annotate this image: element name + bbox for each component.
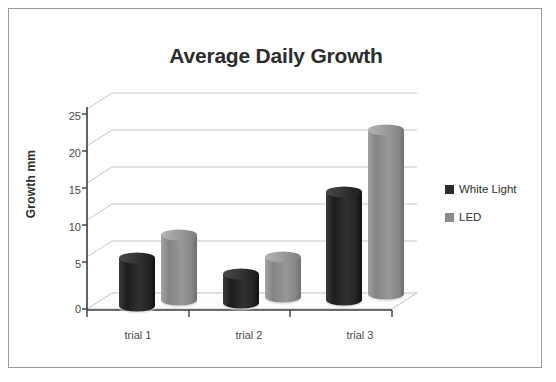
bar-trial-1-led (161, 230, 197, 308)
legend-swatch-led (445, 213, 454, 222)
chart-canvas: Average Daily Growth Growth mm 25 20 15 … (9, 9, 543, 369)
bar-trial-2-led (265, 252, 301, 305)
legend-label-led: LED (459, 211, 481, 223)
chart-frame: Average Daily Growth Growth mm 25 20 15 … (8, 8, 542, 368)
gridlines (87, 93, 417, 257)
legend-item-white-light[interactable]: White Light (445, 183, 541, 195)
bar-trial-1-white-light (119, 253, 155, 314)
chart-legend: White Light LED (445, 183, 541, 239)
legend-label-white-light: White Light (459, 183, 517, 195)
legend-swatch-white-light (445, 185, 454, 194)
bar-trial-2-white-light (223, 269, 259, 311)
legend-item-led[interactable]: LED (445, 211, 541, 223)
bar-trial-3-white-light (326, 187, 362, 308)
bar-trial-3-led (368, 125, 404, 302)
